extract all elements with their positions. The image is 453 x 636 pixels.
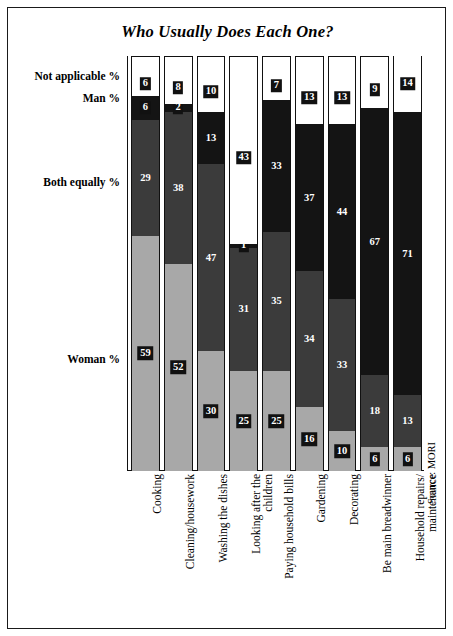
- value-label: 44: [337, 206, 348, 217]
- value-label: 13: [206, 133, 217, 144]
- value-label: 25: [269, 414, 285, 428]
- value-label: 47: [206, 252, 217, 263]
- x-axis-label-line: Be main breadwinner: [381, 474, 393, 624]
- value-label: 37: [304, 192, 315, 203]
- value-label: 67: [370, 236, 381, 247]
- value-label: 31: [238, 304, 249, 315]
- segment-both_equally: 13: [394, 395, 421, 447]
- segment-not_applicable: 14: [394, 56, 421, 112]
- segment-woman: 30: [198, 351, 225, 471]
- segment-man: 6: [132, 96, 159, 120]
- y-axis-category-labels: Not applicable %Man %Both equally %Woman…: [8, 8, 126, 630]
- x-axis-label-4: Paying household bills: [283, 474, 295, 624]
- segment-man: 13: [198, 112, 225, 164]
- segment-man: 33: [263, 100, 290, 232]
- value-label: 71: [402, 248, 413, 259]
- value-label: 10: [334, 444, 350, 458]
- segment-man: 44: [329, 124, 356, 300]
- y-axis-label-1: Man %: [83, 92, 120, 104]
- value-label: 8: [173, 81, 183, 95]
- y-axis-label-2: Both equally %: [43, 176, 120, 188]
- segment-man: 71: [394, 112, 421, 395]
- x-axis-label-0: Cooking: [151, 474, 163, 624]
- source-note: Source: MORI: [426, 394, 437, 504]
- segment-not_applicable: 13: [296, 72, 323, 124]
- value-label: 18: [370, 406, 381, 417]
- segment-not_applicable: 9: [361, 72, 388, 108]
- segment-not_applicable: 6: [132, 72, 159, 96]
- bar-4[interactable]: 2535337: [262, 56, 291, 471]
- segment-woman: 6: [394, 447, 421, 471]
- x-axis-label-line: Gardening: [315, 474, 327, 624]
- value-label: 33: [271, 160, 282, 171]
- value-label: 16: [302, 432, 318, 446]
- bar-6[interactable]: 10334413: [328, 56, 357, 471]
- segment-woman: 6: [361, 447, 388, 471]
- x-axis-labels: CookingCleaning/houseworkWashing the dis…: [127, 474, 424, 624]
- segment-woman: 16: [296, 407, 323, 471]
- x-axis-label-line: Household repairs/: [414, 474, 426, 624]
- x-axis-label-line: Washing the dishes: [217, 474, 229, 624]
- segment-both_equally: 47: [198, 164, 225, 352]
- chart-page: Who Usually Does Each One? Not applicabl…: [0, 0, 453, 636]
- value-label: 34: [304, 334, 315, 345]
- bar-7[interactable]: 618679: [360, 56, 389, 471]
- value-label: 29: [140, 172, 151, 183]
- value-label: 14: [400, 77, 416, 91]
- y-axis-label-3: Woman %: [67, 353, 120, 365]
- value-label: 13: [402, 416, 413, 427]
- segment-woman: 25: [263, 371, 290, 471]
- value-label: 6: [140, 77, 150, 91]
- value-label: 59: [138, 347, 154, 361]
- segment-man: 2: [165, 104, 192, 112]
- segment-not_applicable: 10: [198, 72, 225, 112]
- x-axis-label-line: Paying household bills: [283, 474, 295, 624]
- value-label: 6: [140, 101, 150, 115]
- bar-1[interactable]: 523828: [164, 56, 193, 471]
- value-label: 38: [173, 182, 184, 193]
- segment-both_equally: 29: [132, 120, 159, 236]
- segment-woman: 52: [165, 264, 192, 472]
- bar-8[interactable]: 6137114: [393, 56, 422, 471]
- segment-not_applicable: 8: [165, 72, 192, 104]
- bar-3[interactable]: 2531143: [229, 56, 258, 471]
- segment-man: 67: [361, 108, 388, 375]
- segment-both_equally: 33: [329, 299, 356, 431]
- x-axis-label-line: Cleaning/housework: [184, 474, 196, 624]
- segment-both_equally: 34: [296, 271, 323, 407]
- segment-both_equally: 31: [230, 248, 257, 372]
- x-axis-label-1: Cleaning/housework: [184, 474, 196, 624]
- value-label: 35: [271, 296, 282, 307]
- value-label: 25: [236, 414, 252, 428]
- value-label: 6: [402, 452, 412, 466]
- segment-not_applicable: 43: [230, 72, 257, 244]
- value-label: 13: [334, 91, 350, 105]
- segment-man: 37: [296, 124, 323, 272]
- segment-woman: 10: [329, 431, 356, 471]
- x-axis-label-line: Looking after the: [250, 474, 262, 624]
- x-axis-label-line: Decorating: [348, 474, 360, 624]
- segment-both_equally: 38: [165, 112, 192, 264]
- value-label: 6: [370, 452, 380, 466]
- value-label: 7: [271, 79, 281, 93]
- value-label: 43: [236, 151, 252, 165]
- segment-woman: 59: [132, 236, 159, 471]
- segment-woman: 25: [230, 371, 257, 471]
- bar-0[interactable]: 592966: [131, 56, 160, 471]
- bar-2[interactable]: 30471310: [197, 56, 226, 471]
- value-label: 9: [370, 83, 380, 97]
- value-label: 30: [203, 404, 219, 418]
- plot-area: 5929665238283047131025311432535337163437…: [127, 56, 424, 471]
- x-axis-label-7: Be main breadwinner: [381, 474, 393, 624]
- segment-both_equally: 18: [361, 375, 388, 447]
- segment-man: 1: [230, 244, 257, 248]
- x-axis-label-3: Looking after thechildren: [250, 474, 274, 624]
- x-axis-label-line: Cooking: [151, 474, 163, 624]
- value-label: 33: [337, 360, 348, 371]
- value-label: 10: [203, 85, 219, 99]
- value-label: 52: [170, 361, 186, 375]
- bar-5[interactable]: 16343713: [295, 56, 324, 471]
- value-label: 13: [302, 91, 318, 105]
- x-axis-label-line: children: [262, 474, 274, 624]
- chart-frame: Who Usually Does Each One? Not applicabl…: [7, 7, 446, 629]
